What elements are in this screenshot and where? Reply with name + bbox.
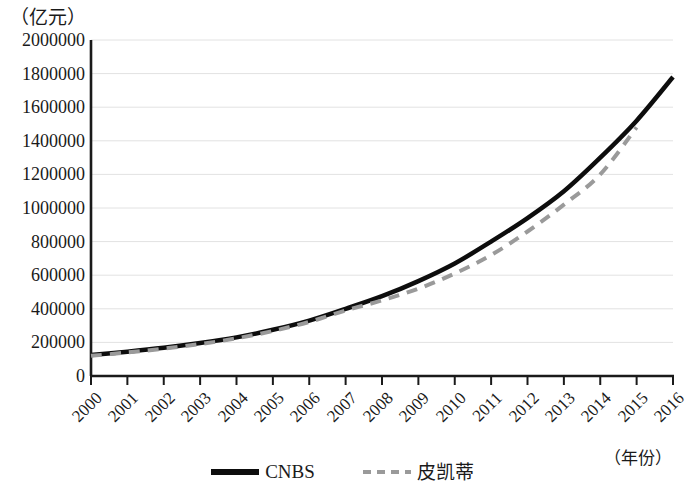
x-axis-tick-label: 2005 bbox=[247, 389, 287, 429]
x-axis-tick-label: 2003 bbox=[174, 389, 214, 429]
x-axis-tick-label: 2010 bbox=[428, 389, 468, 429]
x-axis-tick-label: 2011 bbox=[465, 389, 505, 429]
x-axis-tick-label: 2006 bbox=[283, 389, 323, 429]
x-axis-tick-label: 2004 bbox=[210, 389, 250, 429]
legend-entry[interactable]: CNBS bbox=[209, 462, 315, 482]
legend-label: CNBS bbox=[265, 462, 315, 482]
x-axis-tick-label: 2014 bbox=[574, 389, 614, 429]
legend-swatch-solid-line bbox=[209, 465, 261, 479]
x-axis-tick-label: 2007 bbox=[319, 389, 359, 429]
legend-entry[interactable]: 皮凯蒂 bbox=[361, 462, 474, 482]
x-axis-tick-label: 2008 bbox=[356, 389, 396, 429]
x-axis-tick-label: 2016 bbox=[647, 389, 687, 429]
legend-swatch-dashed-line bbox=[361, 465, 413, 479]
x-axis-tick-label: 2009 bbox=[392, 389, 432, 429]
x-axis-tick-label: 2000 bbox=[65, 389, 105, 429]
x-axis-tick-label: 2012 bbox=[501, 389, 541, 429]
x-axis-tick-label: 2002 bbox=[137, 389, 177, 429]
x-axis-tick-label: 2015 bbox=[610, 389, 650, 429]
x-axis-tick-label: 2001 bbox=[101, 389, 141, 429]
chart-legend: CNBS皮凯蒂 bbox=[0, 462, 683, 482]
x-axis-tick-label: 2013 bbox=[538, 389, 578, 429]
legend-label: 皮凯蒂 bbox=[417, 462, 474, 482]
